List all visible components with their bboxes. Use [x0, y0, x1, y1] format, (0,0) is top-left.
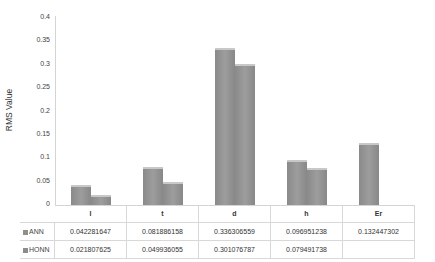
legend-label: ANN	[29, 228, 44, 235]
table-cell: 0.096951238	[271, 223, 343, 241]
table-cell: 0.081886158	[127, 223, 199, 241]
legend-key-icon	[23, 248, 28, 253]
y-tick-label: 0.2	[24, 107, 50, 114]
category-label: t	[127, 205, 199, 223]
y-tick-label: 0.3	[24, 60, 50, 67]
legend-entry: ANN	[20, 223, 55, 241]
table-cell: 0.336306559	[199, 223, 271, 241]
table-cell: 0.049936055	[127, 241, 199, 259]
y-tick-label: 0.15	[24, 130, 50, 137]
bar-ann-t	[143, 167, 163, 205]
category-label: d	[199, 205, 271, 223]
y-tick-label: 0.4	[24, 13, 50, 20]
table-cell: 0.301076787	[199, 241, 271, 259]
y-tick-label: 0.1	[24, 153, 50, 160]
legend-entry: HONN	[20, 241, 55, 259]
bar-honn-l	[91, 195, 111, 205]
table-cell: 0.132447302	[343, 223, 415, 241]
legend-label: HONN	[29, 246, 50, 253]
category-label: l	[55, 205, 127, 223]
bar-ann-l	[71, 185, 91, 205]
table-cell	[343, 241, 415, 259]
bar-ann-d	[215, 48, 235, 205]
bar-ann-er	[359, 143, 379, 205]
legend-key-icon	[23, 230, 28, 235]
y-axis-label: RMS Value	[4, 89, 14, 131]
category-label: h	[271, 205, 343, 223]
table-cell: 0.079491738	[271, 241, 343, 259]
bar-honn-d	[235, 64, 255, 205]
y-tick-label: 0	[24, 200, 50, 207]
bar-honn-h	[307, 168, 327, 205]
bar-honn-t	[163, 182, 183, 205]
y-tick-label: 0.25	[24, 83, 50, 90]
table-cell: 0.042281647	[55, 223, 127, 241]
table-gridline	[20, 258, 415, 259]
bar-ann-h	[287, 160, 307, 205]
y-tick-label: 0.35	[24, 36, 50, 43]
y-axis	[55, 16, 56, 206]
table-cell: 0.021807625	[55, 241, 127, 259]
y-tick-label: 0.05	[24, 177, 50, 184]
category-label: Er	[343, 205, 415, 223]
